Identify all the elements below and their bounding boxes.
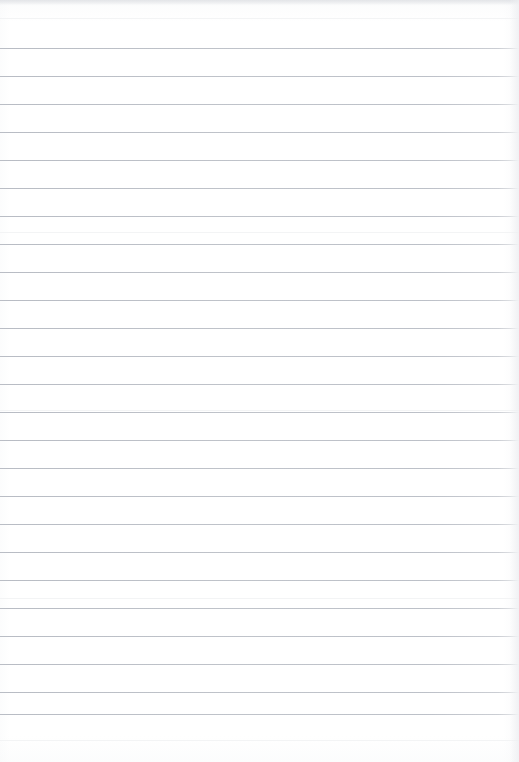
scan-band — [0, 18, 519, 19]
scan-band — [0, 740, 519, 741]
writing-area[interactable] — [0, 48, 519, 715]
lined-paper-page — [0, 0, 519, 762]
